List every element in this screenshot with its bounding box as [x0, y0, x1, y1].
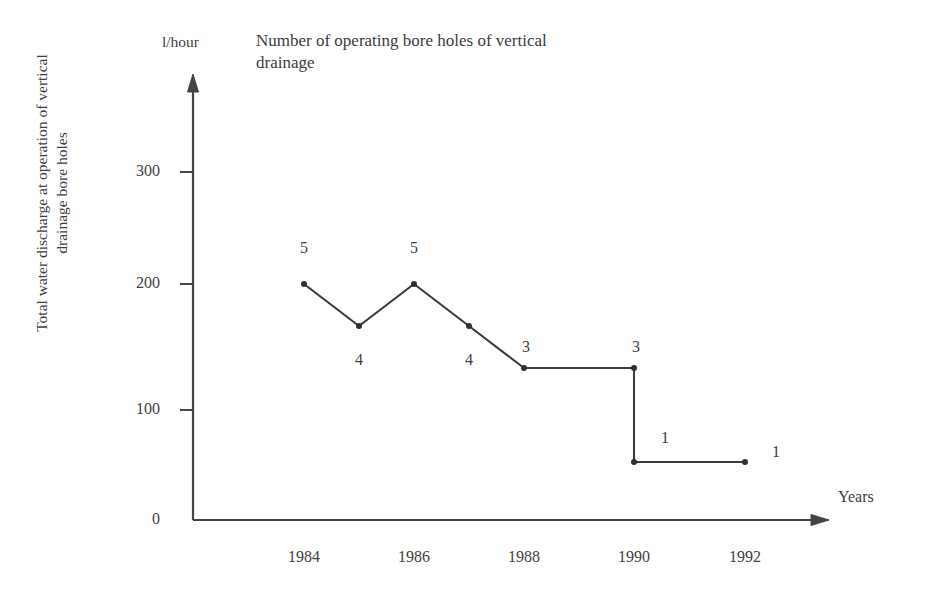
point-annotation-1990-upper: 3: [621, 337, 651, 357]
y-tick-label-100: 100: [108, 399, 160, 419]
point-annotation-1985: 4: [344, 350, 374, 370]
chart-figure: Number of operating bore holes of vertic…: [0, 0, 936, 599]
y-axis-unit-label: l/hour: [162, 32, 199, 52]
x-tick-label-1990: 1990: [599, 547, 669, 567]
x-axis-label: Years: [838, 487, 874, 507]
x-tick-label-1992: 1992: [710, 547, 780, 567]
x-axis: [193, 515, 829, 526]
y-tick-label-0: 0: [108, 509, 160, 529]
data-point-markers: [301, 281, 748, 465]
point-annotation-1992: 1: [761, 442, 791, 462]
y-axis: [188, 74, 199, 520]
x-tick-label-1988: 1988: [489, 547, 559, 567]
y-tick-marks: [180, 172, 193, 410]
point-annotation-1990-lower: 1: [650, 428, 680, 448]
y-axis-label-container: Total water discharge at operation of ve…: [32, 28, 78, 358]
point-annotation-1987: 4: [454, 350, 484, 370]
x-tick-label-1986: 1986: [379, 547, 449, 567]
y-axis-label: Total water discharge at operation of ve…: [32, 28, 72, 358]
point-annotation-1984: 5: [289, 238, 319, 258]
x-tick-label-1984: 1984: [269, 547, 339, 567]
y-tick-label-200: 200: [108, 273, 160, 293]
y-tick-label-300: 300: [108, 161, 160, 181]
point-annotation-1986: 5: [399, 238, 429, 258]
chart-title: Number of operating bore holes of vertic…: [256, 30, 586, 74]
point-annotation-1988: 3: [511, 337, 541, 357]
